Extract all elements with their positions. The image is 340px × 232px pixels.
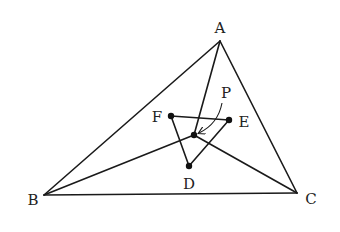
segment-FE [171, 116, 229, 120]
point-F [168, 113, 174, 119]
point-E [226, 117, 232, 123]
label-D: D [183, 175, 195, 193]
segment-AP [194, 41, 220, 135]
segment-CA [220, 41, 297, 193]
label-B: B [27, 191, 38, 209]
segment-DF [171, 116, 189, 166]
point-D [186, 163, 192, 169]
label-E: E [239, 113, 250, 131]
label-P: P [221, 84, 231, 102]
label-C: C [305, 190, 316, 208]
label-F: F [152, 108, 162, 126]
segment-BC [44, 193, 297, 195]
label-A: A [214, 19, 226, 37]
segment-BP [44, 135, 194, 195]
point-P [191, 132, 197, 138]
triangle-diagram: A B C P D E F [0, 0, 340, 232]
